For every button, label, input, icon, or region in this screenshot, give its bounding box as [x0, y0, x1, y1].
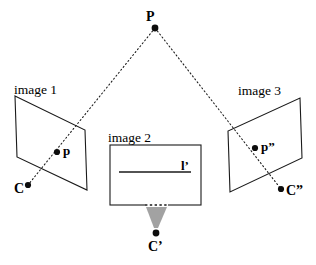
- figure-canvas: image 1 image 2 image 3 P p p” C C’ C” l…: [0, 0, 316, 265]
- camera-center-C-double-prime-dot: [278, 186, 284, 192]
- image3-label: image 3: [238, 84, 281, 98]
- camera-center-C-prime-dot: [153, 230, 160, 237]
- ray-P-to-C-double-prime: [155, 28, 281, 189]
- trifocal-diagram: [0, 0, 316, 265]
- camera-center-C-double-prime-label: C”: [286, 184, 303, 198]
- camera2-projection-cone: [146, 207, 167, 228]
- image-point-p-double-prime-dot: [252, 145, 258, 151]
- image2-plane-rect: [110, 145, 201, 205]
- epipolar-line-label: l’: [181, 159, 189, 172]
- ray-P-to-C: [28, 28, 155, 185]
- camera-center-C-prime-label: C’: [148, 240, 163, 254]
- image-point-p-dot: [54, 149, 60, 155]
- camera-center-C-label: C: [14, 182, 24, 196]
- scene-point-P-dot: [152, 25, 159, 32]
- image2-label: image 2: [108, 131, 151, 145]
- scene-point-P-label: P: [146, 10, 155, 24]
- image1-plane-quad: [15, 96, 87, 190]
- image1-label: image 1: [14, 83, 57, 97]
- image-point-p-double-prime-label: p”: [261, 140, 275, 153]
- image-point-p-label: p: [63, 144, 70, 157]
- camera-center-C-dot: [25, 182, 31, 188]
